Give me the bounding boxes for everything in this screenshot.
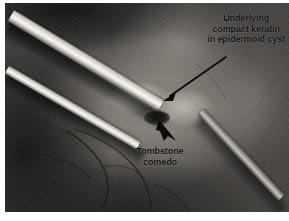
page-margin-bottom	[0, 212, 289, 221]
annotation-label-keratin-line-1: Underlying	[207, 13, 285, 24]
page-margin-top	[0, 0, 289, 3]
annotation-label-keratin-line-2: compact keratin	[207, 24, 285, 35]
clinical-figure: Underlying compact keratin in epidermoid…	[0, 0, 289, 221]
annotation-label-keratin-line-3: in epidermoid cyst	[207, 34, 285, 45]
annotation-label-comedo: Tombstone comedo	[117, 146, 203, 167]
annotation-label-comedo-line-1: Tombstone	[117, 146, 203, 157]
page-margin-left	[0, 0, 5, 221]
annotation-label-comedo-line-2: comedo	[117, 157, 203, 168]
annotation-label-keratin: Underlying compact keratin in epidermoid…	[207, 13, 285, 45]
